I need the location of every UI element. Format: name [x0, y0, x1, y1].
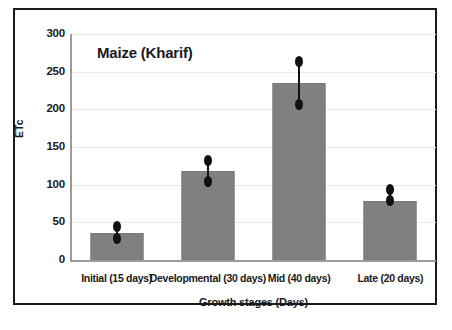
error-bar-mid: [298, 62, 300, 104]
error-dot-low-mid: [295, 99, 303, 110]
bar-slot: [71, 34, 162, 260]
x-axis-line: [70, 260, 436, 262]
chart-frame: 300 250 200 150 100 50 0 ETc Maize (Khar…: [13, 8, 437, 305]
x-tick-developmental: Developmental (30 days): [150, 272, 266, 284]
plot-area: [71, 34, 436, 260]
error-dot-high-late: [386, 184, 394, 195]
y-tick-150: 150: [25, 140, 65, 152]
figure-container: 300 250 200 150 100 50 0 ETc Maize (Khar…: [0, 0, 452, 330]
bar-slot: [345, 34, 436, 260]
bar-slot: [162, 34, 253, 260]
y-tick-300: 300: [25, 27, 65, 39]
y-tick-50: 50: [25, 215, 65, 227]
x-tick-initial: Initial (15 days): [81, 272, 152, 284]
chart-title: Maize (Kharif): [97, 44, 193, 61]
x-axis-tick-labels: Initial (15 days) Developmental (30 days…: [71, 272, 436, 290]
y-tick-100: 100: [25, 178, 65, 190]
y-tick-250: 250: [25, 65, 65, 77]
bar-slot: [254, 34, 345, 260]
y-axis-title: ETc: [13, 120, 25, 138]
y-tick-0: 0: [25, 253, 65, 265]
x-tick-late: Late (20 days): [357, 272, 423, 284]
bar-late[interactable]: [364, 201, 417, 260]
x-tick-mid: Mid (40 days): [268, 272, 331, 284]
caption-strip: [14, 312, 438, 326]
error-dot-low-developmental: [204, 176, 212, 187]
y-axis-line: [70, 34, 72, 261]
x-axis-title: Growth stages (Days): [71, 296, 436, 308]
y-tick-200: 200: [25, 102, 65, 114]
y-axis-tick-labels: 300 250 200 150 100 50 0: [21, 34, 65, 260]
error-dot-high-initial: [113, 221, 121, 232]
error-dot-low-initial: [113, 233, 121, 244]
error-dot-high-mid: [295, 56, 303, 67]
error-dot-high-developmental: [204, 155, 212, 166]
